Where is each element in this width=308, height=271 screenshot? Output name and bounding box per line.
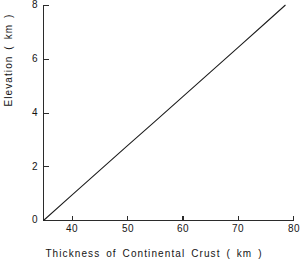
x-axis-title: Thickness of Continental Crust ( km ) [0, 248, 308, 259]
x-tick-label-80: 80 [288, 224, 300, 234]
chart-figure: 8 6 4 2 0 40 50 60 70 80 Thickness of Co… [0, 0, 308, 271]
plot-canvas [0, 0, 308, 271]
x-tick-marks [72, 216, 294, 221]
y-tick-label-6: 6 [24, 54, 38, 64]
y-axis-title: Elevation ( km ) [3, 13, 14, 106]
x-tick-label-50: 50 [122, 224, 134, 234]
y-tick-label-4: 4 [24, 108, 38, 118]
data-series-line [44, 5, 286, 221]
x-tick-label-60: 60 [177, 224, 189, 234]
x-tick-label-70: 70 [232, 224, 244, 234]
y-tick-label-0: 0 [24, 215, 38, 225]
y-axis-title-wrapper: Elevation ( km ) [0, 0, 16, 120]
x-tick-label-40: 40 [66, 224, 78, 234]
y-tick-label-2: 2 [24, 162, 38, 172]
y-tick-label-8: 8 [24, 0, 38, 10]
y-tick-marks [44, 6, 49, 221]
